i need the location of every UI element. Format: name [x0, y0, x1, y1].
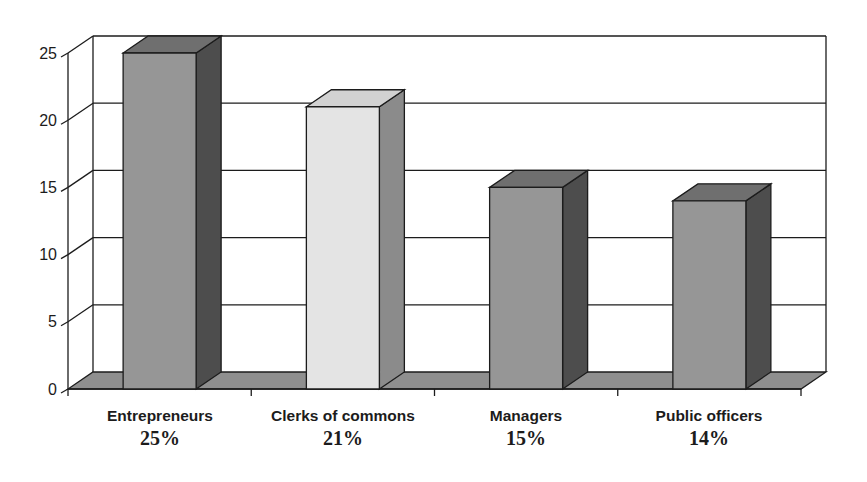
category-name: Managers	[434, 407, 618, 425]
category-labels: Entrepreneurs 25% Clerks of commons 21% …	[0, 0, 867, 482]
category-percent: 25%	[68, 426, 252, 450]
category-label-public-officers: Public officers 14%	[617, 407, 801, 450]
category-name: Entrepreneurs	[68, 407, 252, 425]
category-name: Public officers	[617, 407, 801, 425]
bar-chart: 0510152025 Entrepreneurs 25% Clerks of c…	[0, 0, 867, 482]
category-label-clerks-of-commons: Clerks of commons 21%	[251, 407, 435, 450]
category-label-entrepreneurs: Entrepreneurs 25%	[68, 407, 252, 450]
category-percent: 14%	[617, 426, 801, 450]
category-percent: 21%	[251, 426, 435, 450]
category-label-managers: Managers 15%	[434, 407, 618, 450]
category-percent: 15%	[434, 426, 618, 450]
category-name: Clerks of commons	[251, 407, 435, 425]
